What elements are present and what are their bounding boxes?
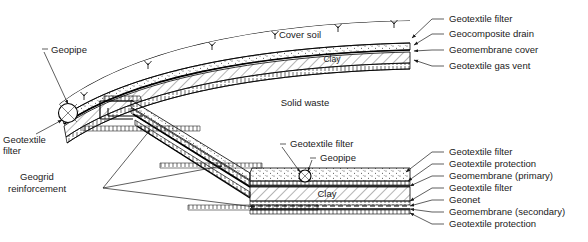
landfill-cross-section-figure: Cover soil Clay Clay	[0, 0, 588, 242]
liner-callout-leaders	[406, 152, 444, 224]
leader-geotextile-gas-vent	[414, 60, 432, 66]
callout-cover-2: Geomembrane cover	[449, 44, 538, 55]
leader-geogrid-3	[103, 188, 255, 207]
cover-system: Cover soil Clay	[60, 20, 410, 143]
callout-dashes-liner	[432, 152, 444, 224]
geopipe-crest-group	[59, 104, 78, 123]
cover-callout-leaders	[412, 19, 444, 66]
leader-geotextile-filter-cover	[412, 19, 432, 38]
callout-liner-2: Geomembrane (primary)	[449, 170, 553, 181]
base-geotextile-protection-upper	[250, 181, 410, 185]
leader-geotextile-filter-left	[36, 120, 62, 134]
callout-cover-3: Geotextile gas vent	[449, 60, 531, 71]
cover-soil-label: Cover soil	[279, 29, 321, 40]
clay-base-label: Clay	[317, 188, 336, 199]
solid-waste-label: Solid waste	[281, 97, 330, 108]
anchor-trench-geotextile	[104, 96, 142, 101]
geogrid-layer-1	[83, 126, 200, 131]
callout-cover-1: Geocomposite drain	[449, 28, 534, 39]
geogrid-label-line1: Geogrid	[20, 171, 54, 182]
geogrid-label-line2: reinforcement	[8, 183, 66, 194]
slope-geonet-layer	[135, 120, 250, 197]
callout-cover-0: Geotextile filter	[449, 13, 512, 24]
geotextile-filter-left-line2: filter	[3, 145, 21, 156]
leader-geotextile-filter-liner	[406, 152, 432, 172]
slope-geotextile-layer	[131, 108, 250, 186]
base-geotextile-filter	[250, 201, 410, 205]
callout-liner-4: Geonet	[449, 194, 481, 205]
base-drainage-layer	[250, 168, 410, 181]
geogrid-layer-2	[160, 163, 262, 168]
leader-geomembrane-secondary	[410, 209, 432, 212]
center-geopipe-label: Geopipe	[320, 152, 356, 163]
leader-geocomposite-drain	[414, 34, 432, 45]
leader-geotextile-filter-lower	[410, 188, 432, 201]
clay-cover-label: Clay	[323, 54, 341, 64]
leader-geopipe-top	[44, 52, 68, 104]
diagram-canvas: Cover soil Clay Clay	[0, 0, 588, 242]
cover-callout-labels: Geotextile filter Geocomposite drain Geo…	[449, 13, 538, 71]
liner-callout-labels: Geotextile filter Geotextile protection …	[449, 146, 565, 229]
center-geotextile-filter-label: Geotextile filter	[290, 138, 353, 149]
geopipe-top-label: Geopipe	[51, 44, 87, 55]
leader-geogrid-1	[103, 130, 150, 188]
callout-liner-5: Geomembrane (secondary)	[449, 206, 565, 217]
callout-liner-6: Geotextile protection	[449, 218, 536, 229]
slope-geomembrane-primary	[133, 114, 250, 187]
callout-dashes-cover	[432, 19, 444, 66]
leader-geogrid-2	[103, 166, 222, 188]
leader-geotextile-protection-lower	[410, 213, 432, 224]
callout-liner-3: Geotextile filter	[449, 182, 512, 193]
leader-geotextile-protection-upper	[408, 164, 432, 181]
leader-geomembrane-cover	[414, 50, 432, 51]
center-callouts: Geotextile filter Geopipe	[280, 138, 356, 172]
base-geotextile-protection-lower	[250, 210, 410, 214]
callout-liner-0: Geotextile filter	[449, 146, 512, 157]
callout-liner-1: Geotextile protection	[449, 158, 536, 169]
leader-geonet	[410, 200, 432, 206]
geotextile-filter-left-line1: Geotextile	[3, 134, 46, 145]
geotextile-filter-left-callout: Geotextile filter	[3, 120, 62, 156]
slope-geomembrane-secondary	[137, 126, 250, 198]
